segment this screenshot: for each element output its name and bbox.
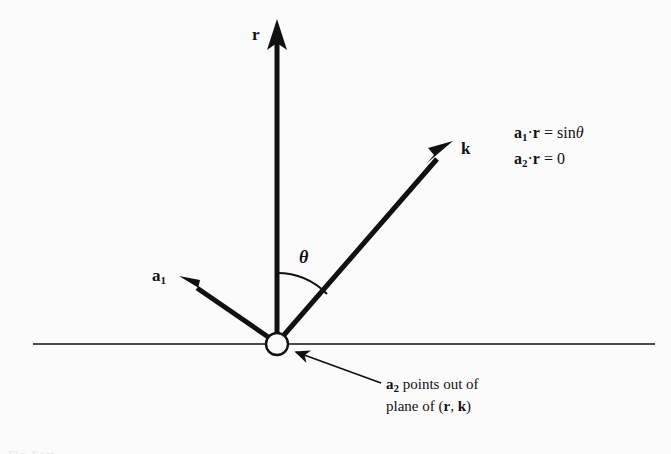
eq2-lhs-vector: a — [514, 150, 522, 167]
k-vector-arrowhead — [427, 141, 453, 163]
theta-angle-label: θ — [299, 248, 308, 266]
equation-row: a1·r = sinθ — [514, 122, 584, 148]
a1-base-letter: a — [152, 266, 161, 285]
eq2-result: 0 — [557, 150, 565, 167]
annotation-line-2-prefix: plane of ( — [386, 398, 443, 414]
equation-row: a2·r = 0 — [514, 148, 584, 174]
k-vector-label: k — [461, 140, 470, 157]
a1-vector-shaft — [197, 288, 277, 343]
annotation-line-1: a2 points out of — [386, 375, 479, 397]
eq1-equals-sign: = — [544, 124, 553, 141]
eq1-result-symbol: θ — [576, 124, 584, 141]
vector-diagram-svg — [0, 0, 671, 454]
eq1-rhs-vector: r — [533, 124, 540, 141]
annotation-a2-letter: a — [386, 376, 394, 392]
annotation-line-2-suffix: ) — [466, 398, 471, 414]
annotation-block: a2 points out of plane of (r, k) — [386, 375, 479, 415]
r-vector-label: r — [252, 26, 260, 43]
origin-circle — [266, 333, 288, 355]
annotation-leader-line — [296, 352, 381, 383]
annotation-separator: , — [450, 398, 458, 414]
eq1-result: sin — [557, 124, 576, 141]
annotation-line-2: plane of (r, k) — [386, 397, 479, 415]
eq2-equals-sign: = — [544, 150, 553, 167]
cropped-caption-fragment: Fig. Sect. — [8, 447, 158, 454]
a1-vector-label: a1 — [152, 267, 166, 286]
eq2-rhs-vector: r — [533, 150, 540, 167]
annotation-line-1-text: points out of — [403, 376, 479, 392]
a1-vector-arrowhead — [179, 276, 207, 293]
annotation-a2-subscript: 2 — [394, 382, 400, 394]
figure-canvas: r k a1 θ a1·r = sinθ a2·r = 0 a2 points … — [0, 0, 671, 454]
annotation-k-letter: k — [458, 398, 466, 414]
eq1-lhs-vector: a — [514, 124, 522, 141]
equations-block: a1·r = sinθ a2·r = 0 — [514, 122, 584, 174]
a1-subscript: 1 — [161, 274, 167, 286]
